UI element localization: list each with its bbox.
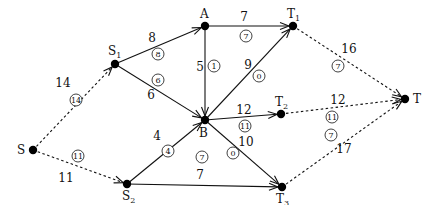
node-dot-icon	[277, 110, 285, 118]
edge-flow: 7	[328, 131, 333, 140]
edge-s-s2: 1111	[33, 150, 123, 185]
edge-t2-t: 1211	[281, 93, 401, 123]
edge-line	[293, 26, 402, 97]
node-t2: T2	[275, 95, 288, 118]
node-t1: T1	[287, 7, 300, 30]
node-label: T1	[287, 7, 300, 23]
node-dot-icon	[123, 180, 131, 188]
node-label: B	[199, 126, 208, 140]
edges-layer: 141411118866775190121110044771671211177	[33, 10, 402, 190]
node-label: T2	[275, 95, 288, 111]
edge-flow: 6	[155, 76, 160, 85]
node-dot-icon	[289, 22, 297, 30]
node-label: S2	[122, 189, 135, 205]
edge-capacity: 17	[336, 142, 351, 156]
edge-capacity: 5	[196, 60, 204, 74]
edge-line	[33, 67, 112, 150]
edge-b-t2: 1211	[205, 103, 277, 132]
edge-s-s1: 1414	[33, 67, 112, 150]
edge-a-t1: 77	[205, 10, 289, 42]
edge-capacity: 12	[236, 103, 251, 117]
node-t3: T3	[276, 183, 289, 205]
edge-t1-t: 167	[293, 26, 402, 97]
network-flow-diagram: 141411118866775190121110044771671211177 …	[0, 0, 436, 205]
node-label: S	[17, 143, 25, 157]
node-dot-icon	[29, 146, 37, 154]
edge-line	[127, 184, 278, 187]
edge-flow: 7	[199, 153, 204, 162]
edge-capacity: 7	[240, 10, 248, 24]
edge-t3-t: 177	[282, 101, 402, 187]
edge-capacity: 7	[196, 168, 204, 182]
edge-capacity: 12	[330, 93, 345, 107]
node-dot-icon	[401, 95, 409, 103]
node-dot-icon	[201, 22, 209, 30]
edge-flow: 4	[165, 147, 170, 156]
edge-s2-b: 44	[127, 123, 202, 184]
edge-capacity: 6	[147, 88, 155, 102]
edge-capacity: 14	[55, 76, 71, 90]
edge-s2-t3: 77	[127, 151, 278, 190]
node-label: T3	[276, 192, 289, 205]
edge-capacity: 8	[148, 31, 156, 45]
node-label: T	[413, 92, 421, 106]
edge-s1-a: 88	[115, 28, 201, 64]
edge-flow: 0	[230, 149, 235, 158]
edge-capacity: 16	[341, 42, 356, 56]
edge-flow: 14	[71, 96, 81, 105]
edge-flow: 11	[240, 122, 250, 131]
edge-flow: 7	[335, 62, 340, 71]
node-s1: S1	[108, 44, 121, 68]
node-b: B	[199, 116, 209, 140]
node-label: S1	[108, 44, 121, 60]
edge-s1-b: 66	[115, 64, 202, 118]
edge-flow: 11	[73, 152, 83, 161]
node-dot-icon	[278, 183, 286, 191]
arrowhead-icon	[392, 89, 401, 97]
node-t: T	[401, 92, 421, 106]
edge-flow: 0	[256, 72, 261, 81]
node-dot-icon	[111, 60, 119, 68]
arrowhead-icon	[392, 101, 401, 109]
edge-flow: 11	[327, 113, 337, 122]
arrowhead-icon	[103, 67, 112, 76]
edge-capacity: 10	[238, 135, 253, 149]
node-dot-icon	[201, 116, 209, 124]
edge-flow: 8	[155, 50, 160, 59]
edge-a-b: 51	[196, 26, 220, 116]
edge-flow: 7	[243, 32, 248, 41]
edge-capacity: 4	[153, 129, 161, 143]
arrowhead-icon	[192, 110, 201, 118]
node-a: A	[199, 7, 209, 30]
node-s: S	[17, 143, 37, 157]
edge-capacity: 9	[244, 58, 252, 72]
edge-line	[115, 64, 202, 118]
edge-flow: 1	[211, 62, 216, 71]
edge-capacity: 11	[58, 171, 73, 185]
node-label: A	[199, 7, 209, 21]
